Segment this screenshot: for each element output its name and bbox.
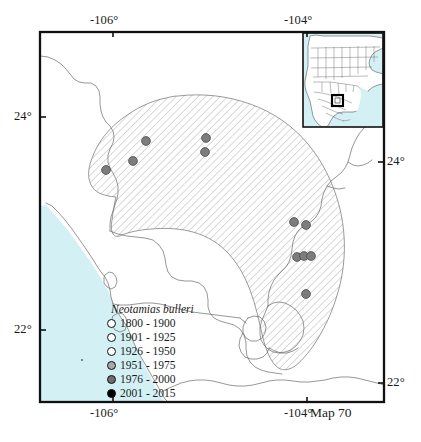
legend-entry: 1951 - 1975 — [107, 358, 227, 372]
occurrence-point — [201, 148, 210, 157]
legend-entry-label: 1800 - 1900 — [120, 317, 176, 330]
occurrence-point — [129, 157, 138, 166]
legend-title: Neotamias bulleri — [111, 303, 227, 315]
occurrence-point — [102, 166, 111, 175]
legend-entry: 1901 - 1925 — [107, 330, 227, 344]
legend-entry-label: 1901 - 1925 — [120, 331, 176, 344]
map-number-label: Map 70 — [310, 405, 352, 421]
axis-label-right-24: 24° — [387, 154, 405, 169]
axis-label-bottom-104: -104° — [284, 406, 312, 421]
legend-entry: 1976 - 2000 — [107, 372, 227, 386]
legend-entry: 2001 - 2015 — [107, 386, 227, 400]
legend-entry-label: 2001 - 2015 — [120, 387, 176, 400]
legend-entry-label: 1926 - 1950 — [120, 345, 176, 358]
axis-label-right-22: 22° — [387, 375, 405, 390]
legend-entry: 1800 - 1900 — [107, 316, 227, 330]
distribution-map: -106° -104° -106° -104° 24° 22° 24° 22° … — [0, 0, 421, 442]
occurrence-point — [142, 137, 151, 146]
legend-swatch-icon — [107, 319, 116, 328]
axis-label-left-22: 22° — [14, 322, 32, 337]
axis-label-bottom-106: -106° — [90, 406, 118, 421]
axis-label-top-106: -106° — [90, 13, 118, 28]
legend-entry: 1926 - 1950 — [107, 344, 227, 358]
legend-swatch-icon — [107, 389, 116, 398]
legend-swatch-icon — [107, 375, 116, 384]
occurrence-point — [290, 218, 299, 227]
legend-entries: 1800 - 19001901 - 19251926 - 19501951 - … — [107, 316, 227, 400]
occurrence-point — [307, 252, 316, 261]
occurrence-point — [302, 290, 311, 299]
axis-label-top-104: -104° — [284, 13, 312, 28]
inset-map — [303, 33, 383, 127]
legend-entry-label: 1951 - 1975 — [120, 359, 176, 372]
legend-swatch-icon — [107, 347, 116, 356]
occurrence-point — [202, 134, 211, 143]
legend-entry-label: 1976 - 2000 — [120, 373, 176, 386]
axis-label-left-24: 24° — [14, 109, 32, 124]
legend-swatch-icon — [107, 333, 116, 342]
occurrence-point — [302, 221, 311, 230]
legend: Neotamias bulleri 1800 - 19001901 - 1925… — [107, 303, 227, 400]
legend-swatch-icon — [107, 361, 116, 370]
